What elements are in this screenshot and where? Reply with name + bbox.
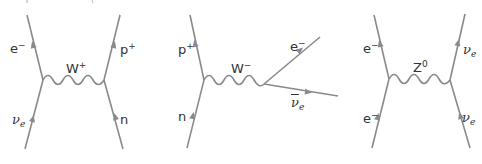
label-d3-bottom-left: e−	[363, 111, 379, 125]
label-d2-out-lower: νe	[291, 96, 304, 112]
label-d1-top-right: p+	[120, 42, 136, 56]
label-d3-top-right: νe	[463, 43, 476, 59]
label-d1-top-left: e−	[10, 41, 26, 55]
label-d2-bottom-left: n	[178, 110, 186, 123]
label-d3-top-left: e−	[363, 41, 379, 55]
fermion-line-neutrino-in	[25, 80, 43, 149]
boson-wavy-line-w-plus	[43, 76, 104, 85]
label-d3-bottom-right: νe	[462, 111, 475, 127]
arrow-icon	[454, 38, 461, 46]
diagram-3	[372, 14, 470, 148]
label-d1-bottom-right: n	[120, 113, 128, 126]
diagram-1	[25, 15, 123, 149]
fermion-line-antineutrino-out	[264, 84, 338, 96]
label-d1-bottom-left: νe	[12, 113, 25, 129]
clipped-text-fragments	[27, 0, 120, 17]
label-d2-boson: W−	[231, 61, 251, 75]
arrow-icon	[29, 114, 37, 122]
label-d3-boson: Z0	[413, 60, 428, 74]
feynman-diagrams-canvas	[0, 0, 482, 164]
label-d2-top-left: p+	[178, 42, 194, 56]
diagram-2	[187, 15, 338, 148]
boson-wavy-line-w-minus	[204, 76, 264, 86]
label-d1-boson: W+	[66, 61, 86, 75]
boson-wavy-line-z0	[389, 75, 450, 84]
fermion-line-neutron-in	[187, 80, 204, 148]
label-d2-out-upper: e−	[290, 39, 306, 53]
